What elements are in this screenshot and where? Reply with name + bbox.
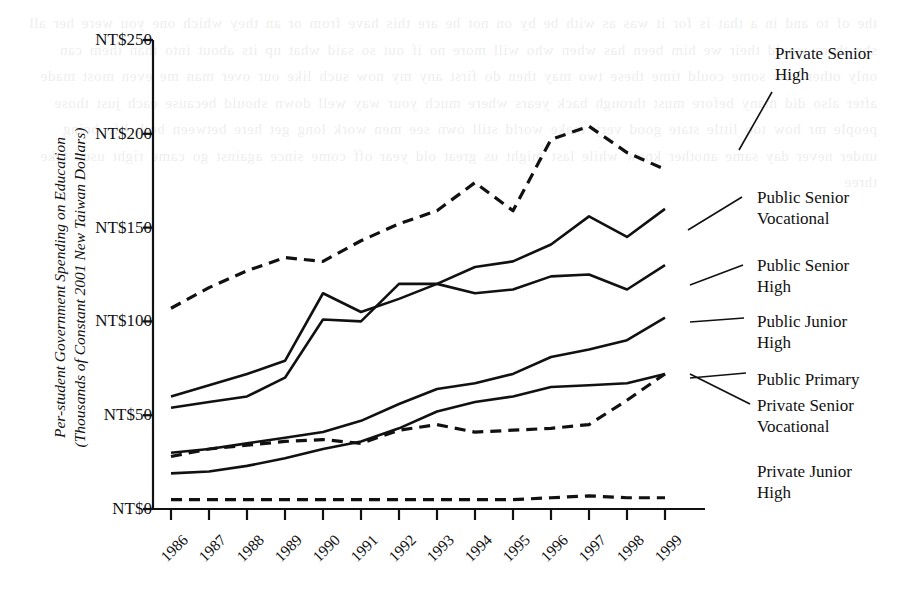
leader-private-senior-high xyxy=(739,92,772,150)
leader-public-junior-high xyxy=(690,318,744,322)
series-line-public-primary xyxy=(171,374,665,473)
leader-public-senior-high xyxy=(690,265,743,285)
plot-area xyxy=(0,0,903,599)
label-leader-lines xyxy=(688,92,772,404)
leader-private-senior-vocational xyxy=(690,374,750,404)
series-line-public-senior-vocational xyxy=(171,209,665,397)
leader-public-senior-vocational xyxy=(688,197,742,230)
leader-public-primary xyxy=(690,373,746,378)
chart-figure: the of to and in a that is for it was as… xyxy=(0,0,903,599)
series-line-private-junior-high xyxy=(171,496,665,500)
series-lines xyxy=(171,126,665,499)
